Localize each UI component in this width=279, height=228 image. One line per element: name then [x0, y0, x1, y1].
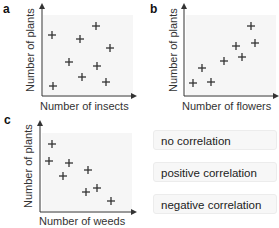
plot-area-b [186, 15, 276, 95]
choice-negative-correlation[interactable]: negative correlation [153, 194, 277, 214]
y-label-b: Number of plants [167, 8, 179, 92]
y-label-c: Number of plants [22, 124, 34, 208]
x-label-c: Number of weeds [39, 215, 125, 227]
plot-area-a [43, 15, 133, 95]
plot-area-c [42, 133, 132, 211]
chart-c [40, 123, 134, 212]
x-label-a: Number of insects [40, 100, 129, 112]
choice-positive-correlation[interactable]: positive correlation [153, 162, 277, 182]
chart-b [184, 6, 276, 96]
y-label-a: Number of plants [24, 8, 36, 92]
choice-no-correlation[interactable]: no correlation [153, 130, 277, 150]
chart-a [42, 6, 134, 96]
x-label-b: Number of flowers [182, 100, 271, 112]
